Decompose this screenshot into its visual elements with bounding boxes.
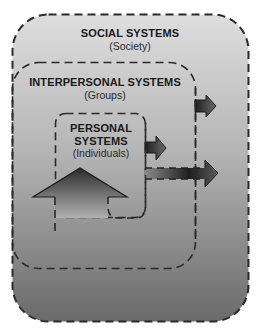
personal-systems-subtitle: (Individuals) — [56, 147, 146, 159]
interpersonal-systems-label: INTERPERSONAL SYSTEMS (Groups) — [20, 76, 190, 101]
social-systems-title: SOCIAL SYSTEMS — [60, 27, 200, 40]
interpersonal-systems-title: INTERPERSONAL SYSTEMS — [20, 76, 190, 89]
interpersonal-systems-subtitle: (Groups) — [20, 89, 190, 101]
personal-systems-title-line1: PERSONAL — [56, 122, 146, 135]
social-systems-subtitle: (Society) — [60, 40, 200, 52]
personal-systems-label: PERSONAL SYSTEMS (Individuals) — [56, 122, 146, 159]
personal-systems-title-line2: SYSTEMS — [56, 135, 146, 148]
social-systems-label: SOCIAL SYSTEMS (Society) — [60, 27, 200, 52]
